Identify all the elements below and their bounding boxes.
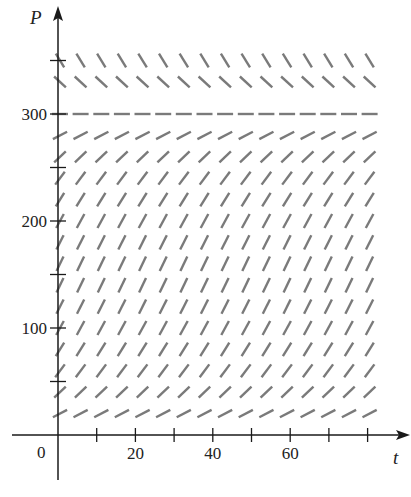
slope-segment xyxy=(345,321,353,335)
slope-segment xyxy=(364,77,376,88)
slope-segment xyxy=(366,300,373,314)
slope-segment xyxy=(117,172,127,185)
slope-segment xyxy=(263,278,270,292)
slope-segment xyxy=(325,214,333,228)
slope-segment xyxy=(261,77,273,88)
slope-segment xyxy=(54,151,66,162)
slope-segment xyxy=(344,172,354,185)
slope-segment xyxy=(263,214,271,228)
slope-segment xyxy=(281,151,293,162)
slope-segment xyxy=(304,54,312,68)
slope-segment xyxy=(365,364,375,377)
slope-segment xyxy=(180,235,187,249)
slope-segment xyxy=(158,172,168,185)
slope-segments xyxy=(52,54,378,418)
slope-segment xyxy=(98,235,105,249)
slope-segment xyxy=(75,151,87,162)
slope-segment xyxy=(137,387,149,398)
y-ticks: 100200300 xyxy=(22,61,67,382)
slope-segment xyxy=(221,193,229,207)
slope-segment xyxy=(321,132,335,139)
slope-segment xyxy=(219,151,231,162)
slope-segment xyxy=(262,364,272,377)
slope-segment xyxy=(97,54,105,68)
slope-segment xyxy=(321,410,335,417)
slope-segment xyxy=(201,214,209,228)
slope-segment xyxy=(241,364,251,377)
slope-segment xyxy=(96,151,108,162)
slope-segment xyxy=(345,343,353,357)
x-tick-label: 40 xyxy=(204,444,221,463)
slope-segment xyxy=(56,343,64,357)
slope-segment xyxy=(77,235,84,249)
slope-segment xyxy=(74,132,88,139)
slope-segment xyxy=(324,343,332,357)
slope-segment xyxy=(283,214,291,228)
slope-segment xyxy=(218,410,232,417)
slope-segment xyxy=(325,300,332,314)
slope-segment xyxy=(242,257,249,271)
slope-segment xyxy=(180,343,188,357)
slope-segment xyxy=(222,300,229,314)
slope-segment xyxy=(345,214,353,228)
slope-segment xyxy=(222,257,229,271)
slope-segment xyxy=(178,77,190,88)
slope-segment xyxy=(346,278,353,292)
slope-segment xyxy=(200,193,208,207)
x-axis-label: t xyxy=(393,447,399,468)
slope-segment xyxy=(55,172,65,185)
slope-segment xyxy=(118,300,125,314)
slope-segment xyxy=(118,214,126,228)
slope-segment xyxy=(55,364,65,377)
slope-segment xyxy=(325,278,332,292)
slope-segment xyxy=(281,77,293,88)
slope-segment xyxy=(324,54,332,68)
slope-segment xyxy=(282,172,292,185)
slope-segment xyxy=(242,300,249,314)
slope-segment xyxy=(76,343,84,357)
slope-segment xyxy=(201,321,209,335)
slope-segment xyxy=(116,77,128,88)
slope-segment xyxy=(159,321,167,335)
slope-segment xyxy=(261,151,273,162)
slope-segment xyxy=(263,257,270,271)
slope-segment xyxy=(180,257,187,271)
slope-segment xyxy=(159,343,167,357)
slope-segment xyxy=(219,77,231,88)
slope-segment xyxy=(242,54,251,68)
slope-segment xyxy=(221,321,229,335)
slope-segment xyxy=(363,410,377,417)
slope-segment xyxy=(345,300,352,314)
y-tick-label: 200 xyxy=(22,212,48,231)
slope-segment xyxy=(365,343,373,357)
slope-segment xyxy=(160,300,167,314)
slope-segment xyxy=(118,321,126,335)
slope-segment xyxy=(115,132,129,139)
slope-segment xyxy=(240,387,252,398)
slope-segment xyxy=(200,172,210,185)
slope-segment xyxy=(199,387,211,398)
slope-segment xyxy=(97,193,105,207)
slope-segment xyxy=(239,410,253,417)
slope-segment xyxy=(304,321,312,335)
slope-segment xyxy=(117,364,127,377)
slope-segment xyxy=(304,300,311,314)
slope-segment xyxy=(283,343,291,357)
slope-segment xyxy=(98,278,105,292)
slope-segment xyxy=(325,321,333,335)
slope-segment xyxy=(325,235,332,249)
slope-segment xyxy=(324,172,334,185)
slope-segment xyxy=(222,278,229,292)
slope-segment xyxy=(323,151,335,162)
slope-segment xyxy=(366,235,373,249)
slope-segment xyxy=(304,343,312,357)
slope-segment xyxy=(199,151,211,162)
slope-segment xyxy=(157,387,169,398)
slope-segment xyxy=(77,300,84,314)
slope-segment xyxy=(366,214,374,228)
slope-segment xyxy=(56,193,64,207)
slope-segment xyxy=(220,172,230,185)
slope-segment xyxy=(74,410,88,417)
slope-segment xyxy=(199,77,211,88)
slope-segment xyxy=(284,278,291,292)
